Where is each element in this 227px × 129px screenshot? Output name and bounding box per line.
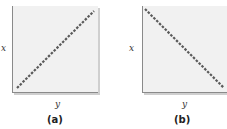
x-axis-label-a: y: [55, 99, 60, 109]
y-axis-label-b: x: [129, 43, 134, 53]
positive-line-a: [0, 0, 113, 129]
y-axis-label-a: x: [1, 43, 6, 53]
x-axis-label-b: y: [182, 99, 187, 109]
panel-caption-a: (a): [47, 114, 63, 125]
negative-line-b: [113, 0, 227, 129]
chart-panel-a: x y (a): [0, 0, 113, 129]
chart-panel-b: x y (b): [113, 0, 226, 129]
panel-caption-b: (b): [174, 114, 190, 125]
